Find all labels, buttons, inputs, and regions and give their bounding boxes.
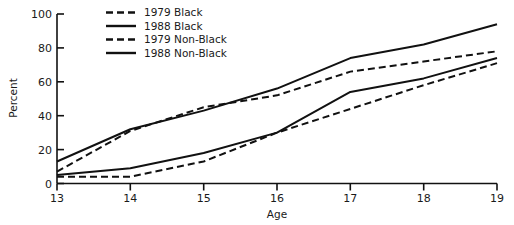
chart-legend: 1979 Black1988 Black1979 Non-Black1988 N… (106, 6, 228, 59)
legend-label-1979-black: 1979 Black (144, 6, 203, 18)
x-tick-label-17: 17 (343, 192, 357, 205)
y-tick-label-100: 100 (31, 8, 52, 21)
chart-figure: 100 80 60 40 20 0 Percent 13 14 15 16 17… (0, 0, 514, 225)
series-line-1988-black (57, 58, 497, 175)
y-tick-label-40: 40 (38, 110, 52, 123)
series-line-1979-non-black (57, 51, 497, 171)
legend-label-1988-black: 1988 Black (144, 20, 203, 32)
y-axis: 100 80 60 40 20 0 (31, 8, 64, 191)
x-tick-label-15: 15 (197, 192, 211, 205)
x-tick-label-19: 19 (490, 192, 504, 205)
data-series-layer (57, 24, 497, 177)
y-axis-title: Percent (7, 78, 19, 118)
series-line-1979-black (57, 63, 497, 177)
y-tick-label-0: 0 (45, 178, 52, 191)
legend-label-1979-non-black: 1979 Non-Black (144, 33, 228, 45)
y-tick-label-60: 60 (38, 76, 52, 89)
x-axis: 13 14 15 16 17 18 19 (50, 184, 504, 206)
x-tick-label-18: 18 (417, 192, 431, 205)
x-tick-label-16: 16 (270, 192, 284, 205)
x-axis-title: Age (267, 208, 287, 220)
line-chart-svg: 100 80 60 40 20 0 Percent 13 14 15 16 17… (0, 0, 514, 225)
x-tick-label-13: 13 (50, 192, 64, 205)
series-line-1988-non-black (57, 24, 497, 161)
y-tick-label-20: 20 (38, 144, 52, 157)
y-tick-label-80: 80 (38, 42, 52, 55)
legend-label-1988-non-black: 1988 Non-Black (144, 47, 228, 59)
x-tick-label-14: 14 (123, 192, 137, 205)
